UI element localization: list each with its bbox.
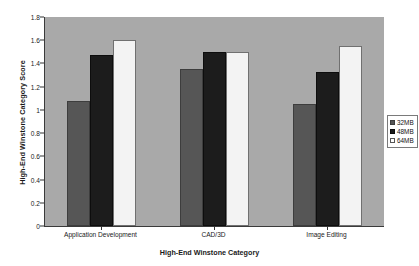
- y-axis-tick-labels: 00.20.40.60.811.21.41.61.8: [14, 0, 40, 266]
- y-tick-mark: [40, 202, 44, 203]
- legend-label: 64MB: [397, 137, 414, 144]
- y-tick-mark: [40, 63, 44, 64]
- bar-32MB-image-editing: [293, 104, 316, 226]
- plot-area: [44, 17, 384, 227]
- bar-48MB-cad-3d: [203, 52, 226, 226]
- y-tick-mark: [40, 17, 44, 18]
- y-tick-mark: [40, 133, 44, 134]
- y-tick-label: 1.2: [14, 83, 40, 90]
- legend-label: 32MB: [397, 119, 414, 126]
- bar-32MB-application-development: [67, 101, 90, 226]
- bars-layer: [45, 17, 384, 226]
- y-tick-label: 1.6: [14, 37, 40, 44]
- y-tick-mark: [40, 40, 44, 41]
- bar-48MB-application-development: [90, 55, 113, 226]
- bar-32MB-cad-3d: [180, 69, 203, 226]
- legend-swatch-icon: [390, 120, 395, 125]
- y-tick-mark: [40, 156, 44, 157]
- y-tick-label: 1.8: [14, 14, 40, 21]
- y-tick-label: 0.4: [14, 176, 40, 183]
- x-tick-label: Application Development: [41, 231, 161, 238]
- legend-item: 64MB: [390, 136, 414, 145]
- y-tick-label: 0.8: [14, 130, 40, 137]
- y-tick-mark: [40, 86, 44, 87]
- legend: 32MB48MB64MB: [387, 115, 418, 148]
- y-tick-label: 1.4: [14, 60, 40, 67]
- y-tick-label: 0.2: [14, 199, 40, 206]
- bar-48MB-image-editing: [316, 72, 339, 226]
- y-tick-mark: [40, 226, 44, 227]
- y-tick-label: 1: [14, 106, 40, 113]
- y-tick-label: 0.6: [14, 153, 40, 160]
- x-tick-label: CAD/3D: [154, 231, 274, 238]
- legend-item: 48MB: [390, 127, 414, 136]
- x-tick-label: Image Editing: [267, 231, 387, 238]
- legend-item: 32MB: [390, 118, 414, 127]
- y-tick-label: 0: [14, 223, 40, 230]
- x-tick-mark: [101, 226, 102, 230]
- legend-swatch-icon: [390, 129, 395, 134]
- bar-64MB-cad-3d: [226, 52, 249, 226]
- x-tick-mark: [214, 226, 215, 230]
- legend-swatch-icon: [390, 138, 395, 143]
- bar-chart: High-End Winstone Category Score 00.20.4…: [0, 0, 419, 266]
- bar-64MB-image-editing: [339, 46, 362, 226]
- x-axis-title: High-End Winstone Category: [0, 248, 419, 257]
- y-tick-mark: [40, 179, 44, 180]
- x-tick-mark: [327, 226, 328, 230]
- bar-64MB-application-development: [113, 40, 136, 226]
- legend-label: 48MB: [397, 128, 414, 135]
- y-tick-mark: [40, 109, 44, 110]
